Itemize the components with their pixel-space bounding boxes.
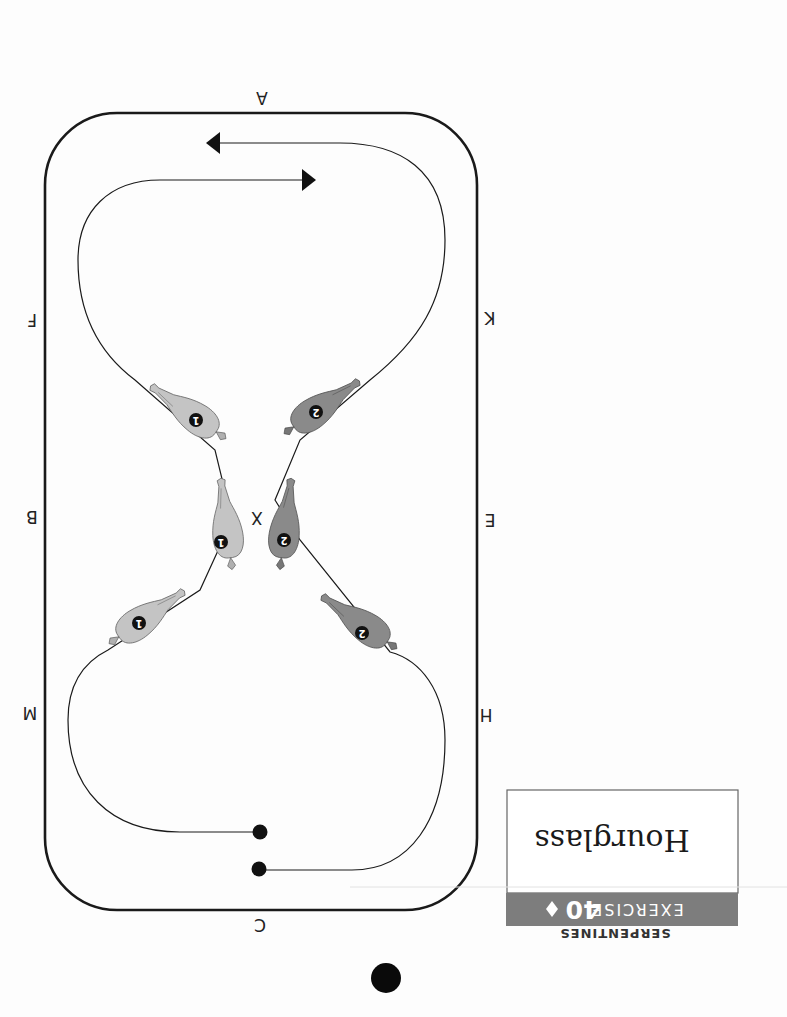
horse-rider-1-lower bbox=[100, 579, 193, 657]
rider-badge: 1 bbox=[132, 616, 146, 630]
marker-e: E bbox=[485, 510, 496, 530]
horse-rider-1-middle bbox=[206, 476, 247, 571]
svg-text:2: 2 bbox=[358, 628, 365, 639]
rider-badge: 2 bbox=[309, 405, 323, 419]
rider-badge: 2 bbox=[355, 626, 369, 640]
exercise-title: Hourglass bbox=[534, 823, 689, 858]
svg-text:1: 1 bbox=[217, 537, 224, 548]
category-label: SERPENTINES bbox=[559, 926, 670, 941]
start-dot-rider-1 bbox=[253, 825, 268, 840]
marker-m: M bbox=[23, 703, 38, 723]
marker-c: C bbox=[254, 915, 266, 935]
marker-x: X bbox=[251, 508, 263, 528]
rider-2-track bbox=[218, 143, 445, 870]
marker-a: A bbox=[256, 88, 268, 108]
rider-badge: 2 bbox=[277, 533, 291, 547]
exercise-label: EXERCISE bbox=[590, 900, 684, 919]
svg-text:1: 1 bbox=[135, 618, 142, 629]
svg-text:1: 1 bbox=[192, 415, 199, 426]
rider-1-track bbox=[68, 180, 306, 832]
horse-rider-1-upper bbox=[142, 374, 235, 452]
exercise-page: 1 1 1 2 2 2 A C F B M K E H X Hourglass … bbox=[0, 0, 787, 1017]
page-dot bbox=[371, 963, 401, 993]
arrow-right-icon bbox=[302, 169, 316, 191]
horse-rider-2-upper bbox=[275, 369, 368, 447]
start-dot-rider-2 bbox=[252, 862, 267, 877]
rider-badge: 1 bbox=[189, 413, 203, 427]
marker-h: H bbox=[480, 705, 493, 725]
svg-text:2: 2 bbox=[280, 535, 287, 546]
marker-b: B bbox=[26, 507, 38, 527]
marker-k: K bbox=[484, 308, 496, 328]
rider-badge: 1 bbox=[214, 535, 228, 549]
horse-rider-2-lower bbox=[313, 584, 406, 662]
exercise-number: 40 bbox=[566, 895, 601, 924]
horse-rider-2-middle bbox=[265, 476, 306, 571]
arrow-left-icon bbox=[206, 132, 220, 154]
marker-f: F bbox=[27, 310, 37, 330]
svg-text:2: 2 bbox=[312, 407, 319, 418]
arena-diagram: 1 1 1 2 2 2 A C F B M K E H X Hourglass … bbox=[0, 0, 787, 1017]
